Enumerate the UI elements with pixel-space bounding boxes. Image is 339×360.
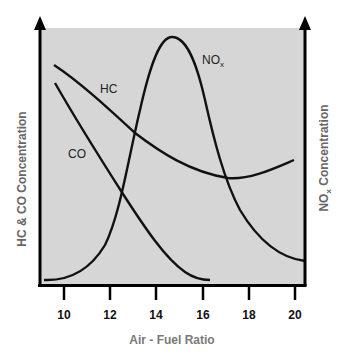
y-axis-right-arrow xyxy=(299,16,311,30)
chart-canvas xyxy=(0,0,339,360)
x-tick-label: 16 xyxy=(196,308,209,322)
y-axis-left-title: HC & CO Concentration xyxy=(15,111,29,246)
co-label: CO xyxy=(68,147,86,161)
x-ticks xyxy=(64,286,295,300)
nox-label: NOx xyxy=(202,53,224,69)
x-axis-title: Air - Fuel Ratio xyxy=(129,333,214,347)
x-tick-label: 18 xyxy=(242,308,255,322)
x-tick-label: 20 xyxy=(288,308,301,322)
y-axis-right-title: NOx Concentration xyxy=(317,104,333,211)
x-tick-label: 10 xyxy=(57,308,70,322)
x-tick-label: 14 xyxy=(149,308,162,322)
x-tick-label: 12 xyxy=(103,308,116,322)
hc-label: HC xyxy=(100,82,117,96)
y-axis-left-arrow xyxy=(34,16,46,30)
